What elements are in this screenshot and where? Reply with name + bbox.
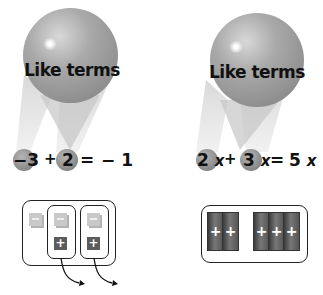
left-op-plus: + [44,150,57,168]
right-balloon-label: Like terms [209,62,305,82]
left-balloon-label: Like terms [24,60,120,80]
minus-tile [29,213,42,226]
x-bar-tile: + [222,212,239,251]
balloon-highlight [229,41,243,53]
balloon-highlight [43,38,57,50]
plus-tile: + [54,237,67,250]
left-equals: = [80,150,94,170]
right-term2: 3 x [243,150,270,170]
right-equals: = [270,150,284,170]
minus-tile [87,213,100,226]
left-term1: −3 [13,150,39,170]
remove-arrows [55,255,125,295]
minus-tile [54,213,67,226]
right-balloon [210,13,304,107]
right-result: 5 x [289,150,316,170]
right-term1: 2 x [197,150,224,170]
left-term2: 2 [62,150,74,170]
left-balloon [23,8,118,103]
plus-tile: + [87,237,100,250]
left-result: − 1 [101,150,133,170]
x-bar-tile: + [283,212,300,251]
right-op-plus: + [224,150,237,168]
